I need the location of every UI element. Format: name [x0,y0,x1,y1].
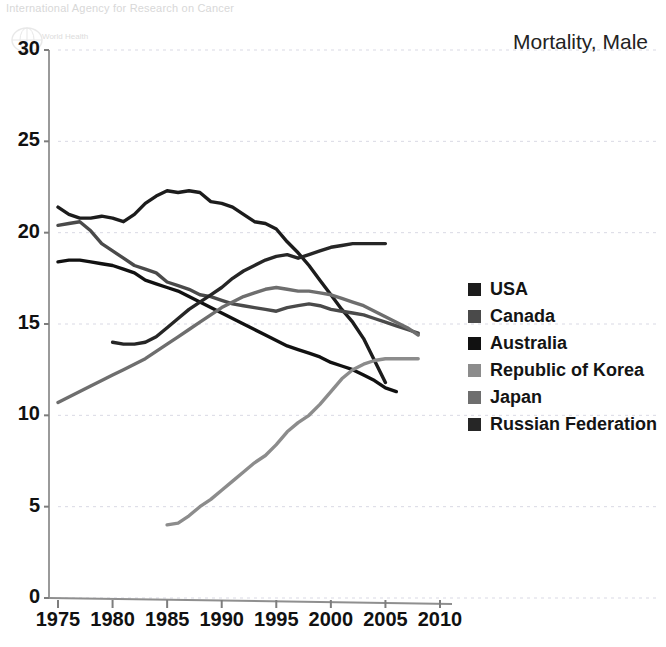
axis-ticks [44,50,440,608]
x-tick-2010: 2010 [405,608,475,631]
legend-item-australia[interactable]: Australia [468,330,657,357]
chart-legend: USACanadaAustraliaRepublic of KoreaJapan… [468,276,657,438]
legend-label: Australia [490,333,567,354]
legend-label: Canada [490,306,555,327]
legend-label: Republic of Korea [490,360,644,381]
y-tick-25: 25 [0,128,40,151]
legend-label: Japan [490,387,542,408]
y-tick-30: 30 [0,37,40,60]
legend-swatch-icon [468,364,481,377]
series-lines [58,191,418,525]
series-line-australia [58,260,396,392]
y-tick-10: 10 [0,402,40,425]
legend-swatch-icon [468,283,481,296]
legend-swatch-icon [468,310,481,323]
y-tick-15: 15 [0,311,40,334]
y-tick-20: 20 [0,220,40,243]
legend-item-republic-of-korea[interactable]: Republic of Korea [468,357,657,384]
legend-swatch-icon [468,391,481,404]
legend-swatch-icon [468,418,481,431]
legend-label: Russian Federation [490,414,657,435]
legend-item-usa[interactable]: USA [468,276,657,303]
series-line-canada [58,222,418,333]
y-tick-0: 0 [0,585,40,608]
legend-label: USA [490,279,528,300]
chart-page: International Agency for Research on Can… [0,0,666,647]
legend-item-japan[interactable]: Japan [468,384,657,411]
legend-item-russian-federation[interactable]: Russian Federation [468,411,657,438]
y-tick-5: 5 [0,494,40,517]
legend-item-canada[interactable]: Canada [468,303,657,330]
legend-swatch-icon [468,337,481,350]
